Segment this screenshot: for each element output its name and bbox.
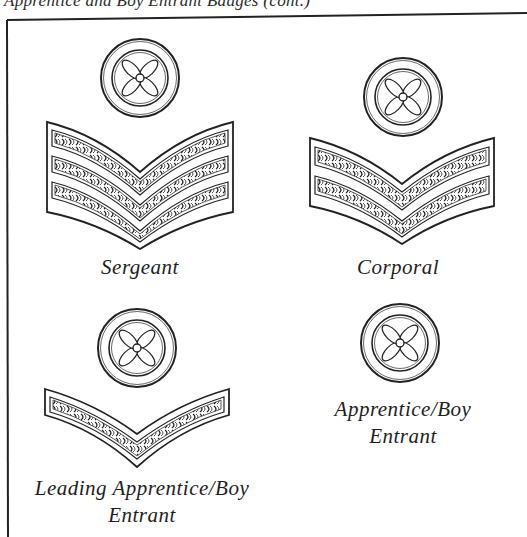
badge-sergeant xyxy=(40,35,240,259)
propeller-roundel-icon xyxy=(361,304,439,382)
caption-line: Sergeant xyxy=(60,254,220,281)
chevron-stripes-icon xyxy=(310,138,494,244)
chevron-stripes-icon xyxy=(47,122,233,249)
caption-corporal: Corporal xyxy=(318,254,478,281)
propeller-roundel-icon xyxy=(101,39,179,117)
badge-apprentice-boy-entrant xyxy=(300,300,500,394)
badge-leading-apprentice-boy-entrant xyxy=(37,305,237,479)
caption-line: Corporal xyxy=(318,254,478,281)
caption-line: Apprentice/Boy xyxy=(318,396,488,423)
caption-sergeant: Sergeant xyxy=(60,254,220,281)
caption-leading-apprentice-boy-entrant: Leading Apprentice/Boy Entrant xyxy=(22,475,262,529)
propeller-roundel-icon xyxy=(98,309,176,387)
caption-line: Entrant xyxy=(22,502,262,529)
badge-corporal xyxy=(303,54,503,258)
caption-apprentice-boy-entrant: Apprentice/Boy Entrant xyxy=(318,396,488,450)
propeller-roundel-icon xyxy=(364,58,442,136)
caption-line: Leading Apprentice/Boy xyxy=(22,475,262,502)
caption-line: Entrant xyxy=(318,423,488,450)
chevron-stripe-icon xyxy=(45,389,229,467)
